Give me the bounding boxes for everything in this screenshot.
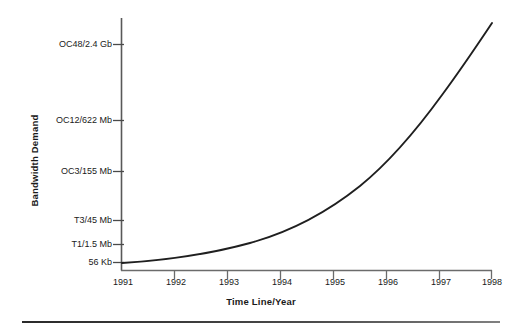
y-tick-label: T3/45 Mb — [0, 215, 112, 225]
x-axis-title: Time Line/Year — [0, 296, 522, 307]
bottom-divider — [22, 321, 500, 323]
x-tick-1998: 1998 — [462, 277, 522, 288]
y-tick-oc48: OC48/2.4 Gb — [0, 39, 112, 49]
y-tick-label: 56 Kb — [0, 257, 112, 267]
x-tick-1995: 1995 — [305, 277, 365, 288]
bandwidth-demand-chart: OC48/2.4 Gb OC12/622 Mb OC3/155 Mb T3/45… — [0, 0, 522, 331]
y-tick-oc3: OC3/155 Mb — [0, 166, 112, 176]
x-tick-1996: 1996 — [358, 277, 418, 288]
x-tick-1994: 1994 — [252, 277, 312, 288]
x-tick-1991: 1991 — [93, 277, 153, 288]
y-tick-56kb: 56 Kb — [0, 257, 112, 267]
y-axis-ticks — [113, 45, 124, 263]
y-tick-oc12: OC12/622 Mb — [0, 115, 112, 125]
demand-curve — [122, 23, 492, 263]
x-tick-1992: 1992 — [146, 277, 206, 288]
y-tick-label: OC48/2.4 Gb — [0, 39, 112, 49]
y-tick-label: OC12/622 Mb — [0, 115, 112, 125]
y-axis-title: Bandwidth Demand — [29, 91, 40, 231]
y-tick-t3: T3/45 Mb — [0, 215, 112, 225]
y-tick-t1: T1/1.5 Mb — [0, 239, 112, 249]
y-tick-label: T1/1.5 Mb — [0, 239, 112, 249]
y-tick-label: OC3/155 Mb — [0, 166, 112, 176]
x-tick-1993: 1993 — [199, 277, 259, 288]
